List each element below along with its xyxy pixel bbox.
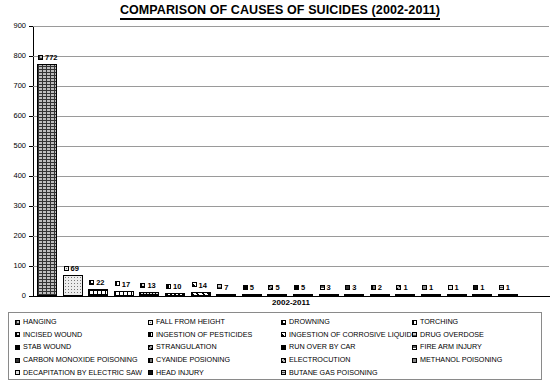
x-axis-label: 2002-2011 xyxy=(33,298,549,307)
bar-value-label: 13 xyxy=(140,282,155,290)
legend-swatch xyxy=(148,320,153,325)
bar xyxy=(139,292,159,296)
legend-swatch xyxy=(15,332,20,337)
legend-item-label: HEAD INJURY xyxy=(156,369,204,377)
bar-value-label: 7 xyxy=(217,284,228,292)
legend-swatch xyxy=(148,332,153,337)
bar-label-value: 14 xyxy=(199,281,207,290)
legend-item[interactable]: STRANGULATION xyxy=(148,343,281,351)
y-tick-label: 400 xyxy=(0,172,26,180)
bar-value-label: 1 xyxy=(422,284,433,292)
bar-label-swatch xyxy=(320,285,325,290)
bar-label-swatch xyxy=(499,285,504,290)
legend-item[interactable]: RUN OVER BY CAR xyxy=(281,343,412,351)
legend-item[interactable]: DECAPITATION BY ELECTRIC SAW xyxy=(15,369,148,377)
legend-swatch xyxy=(281,320,286,325)
y-tick-mark xyxy=(29,296,33,297)
bar-label-value: 69 xyxy=(71,264,79,273)
bar-label-value: 5 xyxy=(250,283,254,292)
bar-label-value: 1 xyxy=(506,283,510,292)
legend-grid: HANGINGFALL FROM HEIGHTDROWNINGTORCHINGI… xyxy=(15,316,537,379)
legend-swatch xyxy=(412,320,417,325)
bar-label-swatch xyxy=(243,285,248,290)
gridline xyxy=(33,116,549,117)
gridline xyxy=(33,56,549,57)
legend-item-label: DROWNING xyxy=(289,318,330,326)
bar-label-swatch xyxy=(371,285,376,290)
legend-item[interactable]: FALL FROM HEIGHT xyxy=(148,318,281,326)
y-tick-label: 100 xyxy=(0,262,26,270)
y-tick-label: 200 xyxy=(0,232,26,240)
legend-swatch xyxy=(15,370,20,375)
bar xyxy=(37,64,57,296)
legend-item[interactable]: INGESTION OF CORROSIVE LIQUID xyxy=(281,331,412,339)
legend-swatch xyxy=(148,358,153,363)
gridline xyxy=(33,146,549,147)
bar-label-value: 3 xyxy=(352,283,356,292)
legend-item[interactable]: CARBON MONOXIDE POISONING xyxy=(15,356,148,364)
bar xyxy=(63,275,83,296)
legend-item-label: RUN OVER BY CAR xyxy=(289,343,356,351)
legend-item[interactable]: TORCHING xyxy=(412,318,538,326)
legend-swatch xyxy=(412,332,417,337)
legend-item-label: INGESTION OF CORROSIVE LIQUID xyxy=(289,331,412,339)
bar xyxy=(88,289,108,296)
legend-item-label: METHANOL POISONING xyxy=(420,356,502,364)
legend-item[interactable]: HANGING xyxy=(15,318,148,326)
bar xyxy=(293,294,313,296)
y-tick-label: 700 xyxy=(0,82,26,90)
legend-item-label: ELECTROCUTION xyxy=(289,356,351,364)
legend-item[interactable]: DRUG OVERDOSE xyxy=(412,331,538,339)
bar-label-value: 22 xyxy=(96,278,104,287)
legend-item-label: DRUG OVERDOSE xyxy=(420,331,484,339)
bar-value-label: 17 xyxy=(115,281,130,289)
legend-item[interactable]: INCISED WOUND xyxy=(15,331,148,339)
legend-swatch xyxy=(15,358,20,363)
y-tick-label: 900 xyxy=(0,22,26,30)
legend-item[interactable]: ELECTROCUTION xyxy=(281,356,412,364)
legend-item[interactable]: HEAD INJURY xyxy=(148,369,281,377)
bar xyxy=(395,294,415,296)
bar xyxy=(267,294,287,296)
gridline xyxy=(33,266,549,267)
bar-label-swatch xyxy=(217,284,222,289)
bar xyxy=(344,294,364,296)
bar-label-value: 2 xyxy=(378,283,382,292)
legend-item[interactable]: INGESTION OF PESTICIDES xyxy=(148,331,281,339)
bar-label-value: 17 xyxy=(122,280,130,289)
bar xyxy=(472,294,492,296)
legend-item[interactable]: CYANIDE POSIONING xyxy=(148,356,281,364)
bar-label-value: 7 xyxy=(224,283,228,292)
legend-item[interactable]: METHANOL POISONING xyxy=(412,356,538,364)
legend-item-label: FALL FROM HEIGHT xyxy=(156,318,225,326)
bar-label-value: 13 xyxy=(147,281,155,290)
y-tick-label: 800 xyxy=(0,52,26,60)
bar-value-label: 2 xyxy=(371,284,382,292)
bar-value-label: 1 xyxy=(396,284,407,292)
bar-label-swatch xyxy=(473,285,478,290)
legend-item-label: TORCHING xyxy=(420,318,458,326)
legend-item-label: INGESTION OF PESTICIDES xyxy=(156,331,252,339)
bar-label-swatch xyxy=(294,285,299,290)
bar-label-swatch xyxy=(166,284,171,289)
legend-item[interactable]: FIRE ARM INJURY xyxy=(412,343,538,351)
bar-label-value: 3 xyxy=(327,283,331,292)
legend-item[interactable]: BUTANE GAS POISONING xyxy=(281,369,412,377)
bar xyxy=(165,293,185,296)
legend-swatch xyxy=(15,345,20,350)
gridline xyxy=(33,26,549,27)
bar-label-swatch xyxy=(89,280,94,285)
gridline xyxy=(33,206,549,207)
y-tick-label: 600 xyxy=(0,112,26,120)
legend-item[interactable]: STAB WOUND xyxy=(15,343,148,351)
legend-item[interactable]: DROWNING xyxy=(281,318,412,326)
bar xyxy=(242,294,262,296)
legend-item-label: STRANGULATION xyxy=(156,343,217,351)
bar-value-label: 3 xyxy=(345,284,356,292)
bar-value-label: 772 xyxy=(38,54,58,62)
bar xyxy=(114,291,134,296)
bar-label-value: 5 xyxy=(301,283,305,292)
bar xyxy=(191,292,211,296)
bar-label-value: 1 xyxy=(403,283,407,292)
legend-item-label: FIRE ARM INJURY xyxy=(420,343,482,351)
